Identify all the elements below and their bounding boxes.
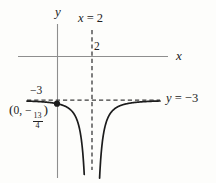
- horizontal-asymptote-eq: = −3: [172, 91, 199, 105]
- curve-branch-1: [100, 101, 160, 178]
- point-label-fraction-denominator: 4: [36, 122, 40, 130]
- x-tick-label: 2: [94, 41, 100, 53]
- point-label-body: 0, −: [14, 104, 32, 116]
- y-axis-label: y: [55, 5, 61, 18]
- function-graph-figure: y x = 2 2 x −3 y = −3 (0, −134): [0, 0, 216, 183]
- marked-point-label: (0, −134): [9, 103, 48, 130]
- marked-point-dot: [54, 101, 60, 107]
- point-label-fraction: 134: [33, 112, 43, 130]
- horizontal-asymptote-label: y = −3: [166, 92, 198, 105]
- y-tick-label: −3: [30, 85, 42, 97]
- vertical-asymptote-label: x = 2: [78, 12, 103, 25]
- x-axis-label: x: [176, 49, 182, 62]
- point-label-close-paren: ): [44, 102, 49, 117]
- vertical-asymptote-eq: = 2: [84, 11, 104, 25]
